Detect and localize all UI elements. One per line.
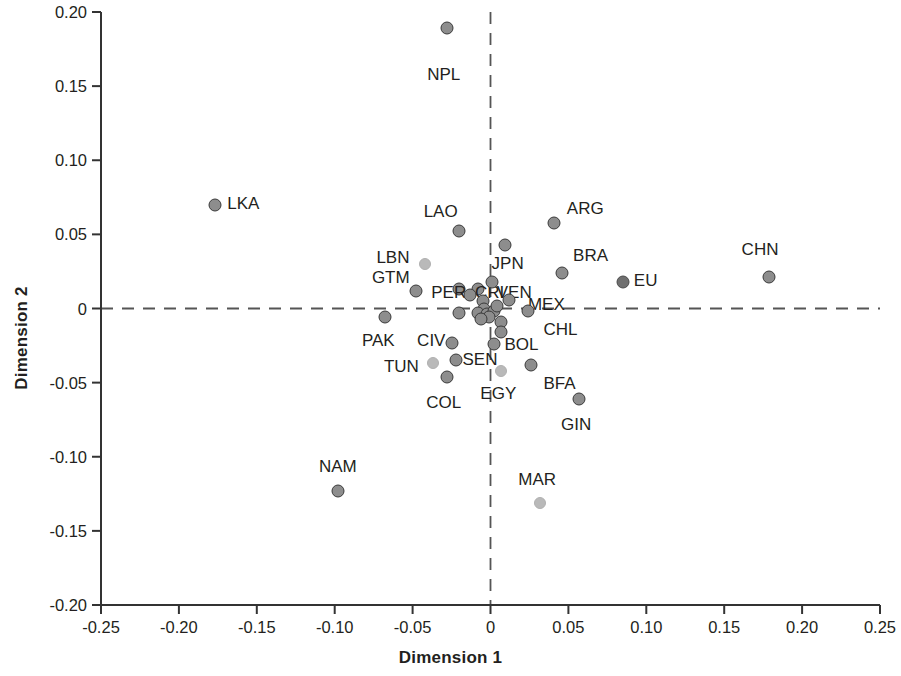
x-tick-label: -0.05 [394, 618, 432, 637]
point-label-lbn: LBN [376, 249, 409, 266]
data-point-lbn[interactable] [419, 258, 431, 270]
y-tick-label: -0.20 [49, 596, 87, 615]
y-tick-label: -0.10 [49, 447, 87, 466]
x-tick-label: -0.10 [316, 618, 354, 637]
data-point-eu[interactable] [616, 275, 629, 288]
plot-area: NPLLKAARGLAOJPNCHNLBNBRAEUGTMPERCRIVENME… [101, 12, 880, 605]
data-point-col[interactable] [440, 370, 453, 383]
data-point[interactable] [495, 326, 508, 339]
y-tick-label: -0.15 [49, 521, 87, 540]
data-point[interactable] [490, 299, 503, 312]
x-tick-label: 0 [486, 618, 495, 637]
x-tick-label: 0.20 [786, 618, 818, 637]
point-label-per: PER [431, 284, 466, 301]
x-tick-label: 0.05 [552, 618, 584, 637]
x-tick-label: -0.15 [238, 618, 276, 637]
data-point-gin[interactable] [573, 392, 586, 405]
point-label-chn: CHN [742, 241, 779, 258]
point-label-gtm: GTM [372, 269, 410, 286]
x-tick-label: 0.25 [864, 618, 896, 637]
point-label-tun: TUN [384, 358, 419, 375]
x-axis-title: Dimension 1 [0, 648, 901, 668]
data-point-mex[interactable] [503, 293, 516, 306]
data-point-lka[interactable] [208, 198, 221, 211]
point-label-chl: CHL [543, 321, 577, 338]
data-point-sen[interactable] [450, 354, 463, 367]
data-point-gtm[interactable] [409, 284, 422, 297]
point-label-lka: LKA [227, 195, 259, 212]
point-label-col: COL [426, 394, 461, 411]
data-point[interactable] [464, 289, 477, 302]
data-point-chl[interactable] [521, 305, 534, 318]
data-point-pak[interactable] [378, 311, 391, 324]
data-point-civ[interactable] [445, 336, 458, 349]
point-label-mar: MAR [518, 471, 556, 488]
point-label-gin: GIN [561, 416, 591, 433]
y-tick-label: 0 [78, 299, 87, 318]
data-point[interactable] [475, 312, 488, 325]
y-tick-label: 0.10 [55, 151, 87, 170]
point-label-pak: PAK [362, 332, 395, 349]
point-label-jpn: JPN [492, 255, 524, 272]
x-tick-label: 0.15 [708, 618, 740, 637]
point-label-eu: EU [634, 272, 658, 289]
point-label-npl: NPL [427, 66, 460, 83]
data-point-arg[interactable] [548, 216, 561, 229]
point-label-nam: NAM [319, 458, 357, 475]
data-point-mar[interactable] [534, 497, 546, 509]
data-point-bfa[interactable] [525, 358, 538, 371]
y-tick-label: 0.05 [55, 225, 87, 244]
data-point-lao[interactable] [453, 225, 466, 238]
data-point[interactable] [453, 306, 466, 319]
data-point-jpn[interactable] [498, 238, 511, 251]
data-point-bra[interactable] [556, 266, 569, 279]
data-point-bol[interactable] [487, 338, 500, 351]
scatter-plot-figure: -0.25-0.20-0.15-0.10-0.0500.050.100.150.… [0, 0, 901, 676]
point-label-bol: BOL [505, 336, 539, 353]
data-point-nam[interactable] [331, 484, 344, 497]
y-tick-label: 0.20 [55, 3, 87, 22]
point-label-bfa: BFA [543, 375, 575, 392]
point-label-egy: EGY [480, 385, 516, 402]
point-label-sen: SEN [462, 351, 497, 368]
data-point-tun[interactable] [427, 357, 439, 369]
point-label-lao: LAO [424, 203, 458, 220]
point-label-arg: ARG [567, 200, 604, 217]
y-tick-label: 0.15 [55, 77, 87, 96]
data-point-egy[interactable] [495, 365, 507, 377]
y-tick-label: -0.05 [49, 373, 87, 392]
point-label-bra: BRA [573, 247, 608, 264]
x-tick-label: 0.10 [630, 618, 662, 637]
x-tick-label: -0.25 [82, 618, 120, 637]
y-axis-title: Dimension 2 [12, 258, 32, 418]
x-tick-label: -0.20 [160, 618, 198, 637]
point-label-civ: CIV [417, 332, 445, 349]
data-point-npl[interactable] [440, 22, 453, 35]
data-point-chn[interactable] [763, 271, 776, 284]
